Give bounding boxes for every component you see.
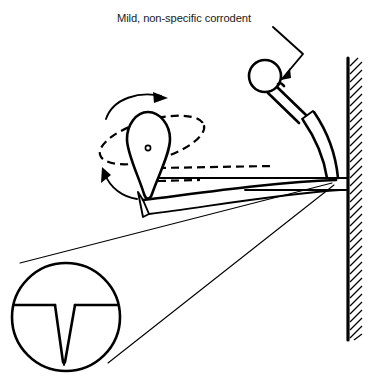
nozzle-head-circle: [249, 60, 281, 92]
corrodent-label: Mild, non-specific corrodent: [117, 12, 252, 24]
dashed-reference-lower: [158, 180, 200, 181]
wall-hatching: [350, 58, 362, 340]
nozzle-neck-upper: [276, 86, 306, 115]
teardrop-body: [127, 112, 170, 199]
v-pit-tip: [63, 362, 65, 365]
technical-diagram-svg: Mild, non-specific corrodent: [0, 0, 374, 387]
figure-root: Mild, non-specific corrodent: [0, 0, 374, 387]
hatched-wall: [348, 58, 362, 340]
surface-bottom-curve: [149, 190, 340, 214]
dashed-reference-upper: [158, 166, 272, 168]
curved-specimen-surface: [138, 166, 348, 217]
curved-arrow-right-head: [153, 92, 168, 103]
curved-arrow-upleft-head: [101, 167, 111, 183]
nozzle-neck-lower: [268, 93, 299, 123]
spray-nozzle-assembly: [249, 60, 338, 178]
curved-arrow-upleft-icon: [105, 174, 137, 199]
arrowhead-icon: [281, 68, 291, 80]
magnified-detail-circle: [12, 263, 120, 371]
